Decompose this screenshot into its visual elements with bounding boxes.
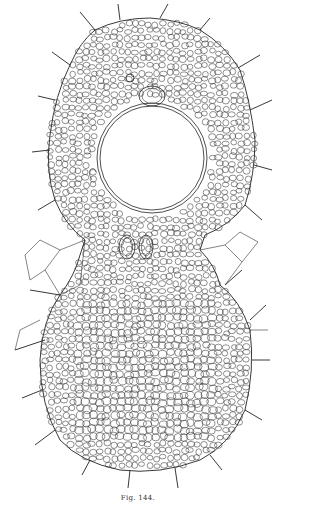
cell (110, 202, 116, 208)
cell (145, 34, 152, 39)
cell (168, 34, 174, 39)
cell (195, 27, 202, 33)
cell (243, 378, 249, 383)
cell (77, 64, 84, 70)
cell (229, 392, 236, 397)
cell (196, 56, 202, 62)
cell (208, 314, 217, 321)
cell (150, 349, 158, 355)
cell (209, 189, 216, 195)
cell (56, 427, 62, 432)
cell (73, 322, 82, 329)
cell (123, 434, 132, 441)
cell (193, 106, 200, 113)
cell (117, 247, 124, 252)
cell (174, 434, 182, 442)
cell (207, 435, 214, 442)
cell (223, 120, 229, 126)
cell (70, 309, 77, 315)
large-vessel (100, 106, 204, 210)
cell (117, 99, 123, 104)
cell (217, 175, 224, 180)
cell (229, 162, 236, 167)
cell (69, 356, 76, 362)
cell (168, 455, 174, 461)
cell (236, 406, 243, 412)
cell (70, 384, 76, 391)
cell (104, 239, 110, 245)
cell (139, 217, 146, 223)
cell (186, 265, 194, 271)
cell (97, 204, 104, 210)
cell (62, 357, 69, 362)
cell (182, 43, 189, 49)
cell (68, 293, 74, 299)
cell (133, 349, 140, 356)
cell (125, 448, 131, 454)
cell (89, 104, 97, 110)
cell (102, 50, 109, 55)
cell (186, 384, 195, 392)
cell (223, 70, 231, 76)
cell (118, 57, 125, 62)
cell (88, 315, 97, 322)
cell (83, 62, 90, 67)
cell (251, 147, 257, 152)
cell (187, 28, 193, 34)
cell (200, 219, 207, 225)
cell (130, 391, 138, 397)
cell (56, 363, 62, 369)
cell (109, 267, 116, 274)
cell (76, 83, 83, 89)
cell (84, 209, 90, 214)
cell (67, 187, 74, 193)
cell (50, 174, 56, 180)
cell (202, 195, 208, 200)
cell (118, 357, 126, 365)
cell (47, 140, 53, 145)
cell (201, 328, 209, 335)
cell (96, 265, 103, 270)
cell (187, 355, 195, 362)
cell (47, 338, 53, 343)
cell (186, 314, 194, 321)
cell (162, 238, 168, 243)
cell (238, 141, 245, 146)
cell (216, 378, 224, 384)
cell (140, 293, 147, 299)
cell (69, 216, 76, 222)
cell (138, 287, 145, 293)
cell (112, 55, 118, 61)
cell (117, 27, 123, 32)
cell (215, 190, 221, 196)
cell (76, 211, 83, 217)
cell (89, 378, 96, 386)
cell (179, 51, 186, 56)
cell (137, 328, 145, 335)
cell (103, 69, 110, 75)
cell (159, 57, 165, 62)
cell (133, 267, 140, 272)
cell (55, 406, 61, 412)
cell (208, 329, 217, 335)
cell (111, 273, 117, 278)
cell (174, 98, 181, 103)
cell (195, 49, 202, 54)
cell (90, 343, 98, 351)
cell (61, 78, 68, 84)
cell (55, 134, 61, 139)
cell (55, 182, 62, 188)
cell (98, 77, 104, 84)
cell (63, 421, 69, 426)
cell (230, 412, 236, 418)
cell (89, 244, 95, 250)
cell (154, 456, 160, 462)
cell (181, 376, 189, 384)
cell (63, 189, 70, 195)
cell (172, 40, 179, 47)
cell (102, 315, 110, 321)
cell (138, 28, 144, 33)
cell (91, 76, 97, 82)
cell (160, 225, 167, 230)
cell (75, 224, 82, 229)
